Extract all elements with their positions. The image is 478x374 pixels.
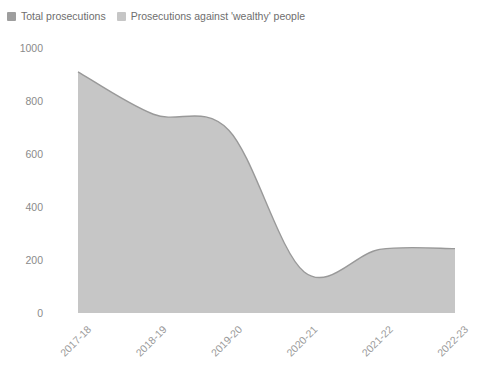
y-axis-tick-label: 0 [37,307,43,319]
plot-area: 02004006008001000 2017-182018-192019-202… [0,0,478,374]
x-axis-tick-label: 2018-19 [133,323,169,359]
y-axis-tick-label: 800 [25,95,43,107]
chart-container: Total prosecutions Prosecutions against … [0,0,478,374]
y-axis-tick-label: 1000 [20,42,44,54]
x-axis-tick-label: 2020-21 [284,323,320,359]
y-axis-tick-label: 400 [25,201,43,213]
y-axis-tick-label: 200 [25,254,43,266]
x-axis-tick-group: 2017-182018-192019-202020-212021-222022-… [58,323,471,359]
x-axis-tick-label: 2021-22 [359,323,395,359]
y-axis-tick-group: 02004006008001000 [20,42,44,319]
y-axis-tick-label: 600 [25,148,43,160]
area-series-group [78,72,455,313]
x-axis-tick-label: 2022-23 [435,323,471,359]
x-axis-tick-label: 2019-20 [208,323,244,359]
area-series-total-prosecutions [78,72,455,313]
x-axis-tick-label: 2017-18 [58,323,94,359]
